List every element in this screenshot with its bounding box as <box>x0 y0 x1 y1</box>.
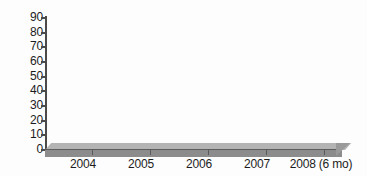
x-axis-label-2006: 2006 <box>169 158 229 171</box>
y-axis-tick-mark <box>41 46 46 48</box>
y-axis-tick-label: 50 <box>12 70 43 82</box>
floor-right-edge <box>336 143 350 156</box>
y-axis-tick-mark <box>41 134 46 136</box>
x-axis-tick-mark <box>266 149 267 155</box>
x-axis-tick-mark <box>150 149 151 155</box>
y-axis-tick-mark <box>41 120 46 122</box>
y-axis-tick-label: 70 <box>12 40 43 52</box>
x-axis-tick-mark <box>208 149 209 155</box>
floor-front-face <box>45 149 342 157</box>
x-axis-label-2008: 2008 (6 mo) <box>281 158 361 171</box>
y-axis-tick-label: 0 <box>12 143 43 155</box>
x-axis-tick-mark <box>92 149 93 155</box>
y-axis-tick-label: 10 <box>12 128 43 140</box>
plot-area: 90 80 70 60 50 40 30 20 10 0 <box>0 0 367 176</box>
y-axis-tick-label: 60 <box>12 55 43 67</box>
x-axis-tick-mark <box>324 149 325 155</box>
y-axis-tick-label: 30 <box>12 99 43 111</box>
bar-chart: 90 80 70 60 50 40 30 20 10 0 <box>0 0 367 176</box>
y-axis-tick-mark <box>41 105 46 107</box>
y-axis-tick-mark <box>41 76 46 78</box>
y-axis-line <box>45 16 47 150</box>
y-axis-tick-mark <box>41 17 46 19</box>
x-axis-label-2007: 2007 <box>227 158 287 171</box>
y-axis-tick-label: 80 <box>12 26 43 38</box>
x-axis-label-2005: 2005 <box>111 158 171 171</box>
x-axis-label-2004: 2004 <box>53 158 113 171</box>
y-axis-tick-label: 40 <box>12 84 43 96</box>
y-axis-tick-mark <box>41 61 46 63</box>
y-axis-tick-mark <box>41 90 46 92</box>
y-axis-tick-label: 20 <box>12 114 43 126</box>
y-axis-tick-label: 90 <box>12 11 43 23</box>
y-axis-tick-mark <box>41 32 46 34</box>
